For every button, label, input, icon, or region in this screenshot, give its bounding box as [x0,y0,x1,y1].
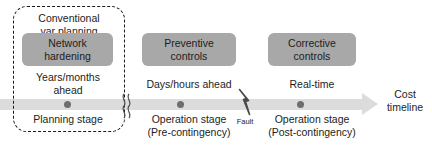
stage-box-network-hardening: Network hardening [22,33,113,66]
stage-dot-pre-contingency [177,101,184,108]
stage-label-planning: Planning stage [18,113,118,126]
resilience-timeline-figure: Conventional var planning Network harden… [0,0,432,151]
stage-box-preventive-controls-label: Preventive controls [164,37,214,62]
stage-dot-planning [64,101,71,108]
fault-lightning-icon [236,88,254,116]
cost-timeline-arrowhead-icon [362,93,378,115]
stage-box-network-hardening-label: Network hardening [44,37,91,62]
stage-box-corrective-controls-label: Corrective controls [288,37,336,62]
stage-dot-post-contingency [297,101,304,108]
lead-time-post-contingency: Real-time [268,78,356,91]
stage-label-post-contingency: Operation stage (Post-contingency) [253,113,371,138]
lead-time-pre-contingency: Days/hours ahead [134,78,244,91]
lead-time-planning: Years/months ahead [18,71,118,96]
axis-end-label: Cost timeline [381,88,429,113]
stage-box-preventive-controls: Preventive controls [142,33,236,66]
stage-box-corrective-controls: Corrective controls [268,33,356,66]
